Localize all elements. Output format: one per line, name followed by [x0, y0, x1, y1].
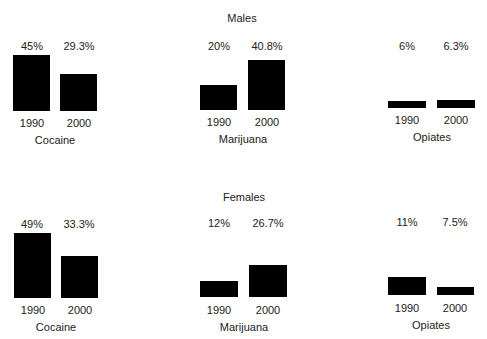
females-opiates-2000-bar — [437, 287, 474, 295]
males-opiates-1990-value: 6% — [399, 40, 415, 52]
males-title: Males — [227, 12, 256, 24]
males-marijuana-category: Marijuana — [219, 133, 267, 145]
females-marijuana-1990-label: 1990 — [207, 304, 231, 316]
males-marijuana-2000-bar — [248, 60, 285, 110]
males-marijuana-1990-bar — [200, 85, 237, 110]
females-marijuana-1990-bar — [200, 281, 238, 297]
males-marijuana-1990-value: 20% — [208, 40, 230, 52]
males-opiates-2000-bar — [437, 100, 475, 108]
females-cocaine-2000-value: 33.3% — [63, 218, 94, 230]
females-opiates-2000-label: 2000 — [443, 302, 467, 314]
females-opiates-1990-label: 1990 — [395, 302, 419, 314]
males-marijuana-2000-value: 40.8% — [251, 40, 282, 52]
females-title: Females — [223, 191, 265, 203]
females-marijuana-2000-bar — [249, 265, 287, 297]
females-cocaine-1990-label: 1990 — [21, 304, 45, 316]
males-cocaine-2000-label: 2000 — [67, 117, 91, 129]
females-cocaine-2000-label: 2000 — [68, 304, 92, 316]
females-marijuana-2000-value: 26.7% — [252, 217, 283, 229]
males-marijuana-2000-label: 2000 — [255, 116, 279, 128]
females-marijuana-category: Marijuana — [220, 321, 268, 333]
females-marijuana-2000-label: 2000 — [256, 304, 280, 316]
males-opiates-1990-bar — [388, 101, 426, 108]
males-opiates-1990-label: 1990 — [395, 114, 419, 126]
females-opiates-1990-bar — [388, 277, 426, 295]
males-cocaine-category: Cocaine — [35, 134, 75, 146]
males-marijuana-1990-label: 1990 — [207, 116, 231, 128]
males-opiates-category: Opiates — [413, 131, 451, 143]
males-opiates-2000-label: 2000 — [444, 114, 468, 126]
females-opiates-2000-value: 7.5% — [442, 216, 467, 228]
females-opiates-category: Opiates — [412, 319, 450, 331]
females-cocaine-category: Cocaine — [36, 321, 76, 333]
males-cocaine-1990-label: 1990 — [20, 117, 44, 129]
males-cocaine-2000-bar — [60, 74, 97, 111]
males-cocaine-1990-value: 45% — [21, 40, 43, 52]
males-opiates-2000-value: 6.3% — [443, 40, 468, 52]
females-cocaine-1990-bar — [14, 233, 51, 298]
males-cocaine-1990-bar — [13, 55, 50, 111]
males-cocaine-2000-value: 29.3% — [63, 40, 94, 52]
females-opiates-1990-value: 11% — [396, 216, 417, 228]
females-marijuana-1990-value: 12% — [208, 217, 230, 229]
females-cocaine-2000-bar — [61, 256, 98, 298]
females-cocaine-1990-value: 49% — [21, 218, 43, 230]
